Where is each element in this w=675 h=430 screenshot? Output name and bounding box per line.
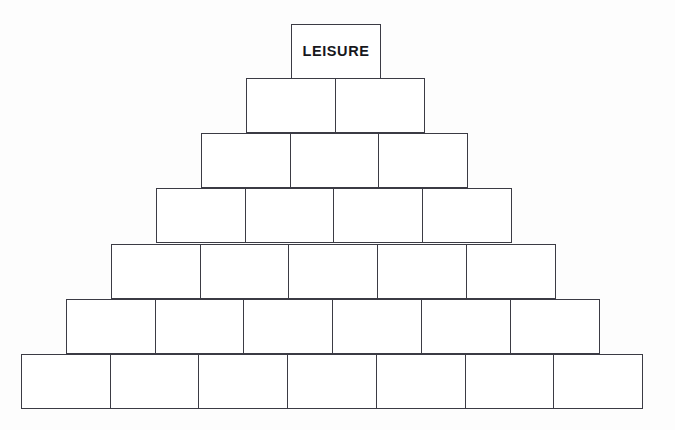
pyramid-block-r5-c3[interactable] — [288, 244, 378, 299]
pyramid-block-r6-c3[interactable] — [243, 299, 333, 354]
pyramid-block-r1-c1[interactable]: LEISURE — [291, 24, 381, 79]
pyramid-row-3 — [201, 133, 468, 188]
pyramid-block-r6-c6[interactable] — [510, 299, 600, 354]
pyramid-row-1: LEISURE — [291, 24, 381, 79]
pyramid-block-r7-c7[interactable] — [553, 354, 643, 409]
pyramid-row-7 — [21, 354, 643, 409]
pyramid-block-r3-c2[interactable] — [290, 133, 380, 188]
pyramid-block-r7-c4[interactable] — [287, 354, 377, 409]
pyramid-row-4 — [156, 188, 512, 243]
pyramid-block-r4-c2[interactable] — [245, 188, 335, 243]
pyramid-block-r5-c4[interactable] — [377, 244, 467, 299]
pyramid-block-r2-c2[interactable] — [335, 78, 425, 133]
pyramid-block-r5-c1[interactable] — [111, 244, 201, 299]
pyramid-block-label: LEISURE — [302, 44, 369, 59]
pyramid-block-r7-c3[interactable] — [198, 354, 288, 409]
pyramid-block-r7-c2[interactable] — [110, 354, 200, 409]
pyramid-row-6 — [66, 299, 600, 354]
pyramid-block-r3-c3[interactable] — [378, 133, 468, 188]
pyramid-row-2 — [246, 78, 425, 133]
pyramid-block-r2-c1[interactable] — [246, 78, 336, 133]
pyramid-block-r7-c6[interactable] — [465, 354, 555, 409]
leisure-pyramid-diagram: LEISURE — [0, 0, 675, 430]
pyramid-block-r6-c1[interactable] — [66, 299, 156, 354]
pyramid-block-r6-c4[interactable] — [332, 299, 422, 354]
pyramid-block-r6-c5[interactable] — [421, 299, 511, 354]
pyramid-block-r4-c3[interactable] — [333, 188, 423, 243]
pyramid-block-r4-c1[interactable] — [156, 188, 246, 243]
pyramid-block-r7-c1[interactable] — [21, 354, 111, 409]
pyramid-block-r3-c1[interactable] — [201, 133, 291, 188]
pyramid-block-r7-c5[interactable] — [376, 354, 466, 409]
pyramid-block-r5-c5[interactable] — [466, 244, 556, 299]
pyramid-block-r4-c4[interactable] — [422, 188, 512, 243]
pyramid-block-r6-c2[interactable] — [155, 299, 245, 354]
pyramid-block-r5-c2[interactable] — [200, 244, 290, 299]
pyramid-row-5 — [111, 244, 556, 299]
